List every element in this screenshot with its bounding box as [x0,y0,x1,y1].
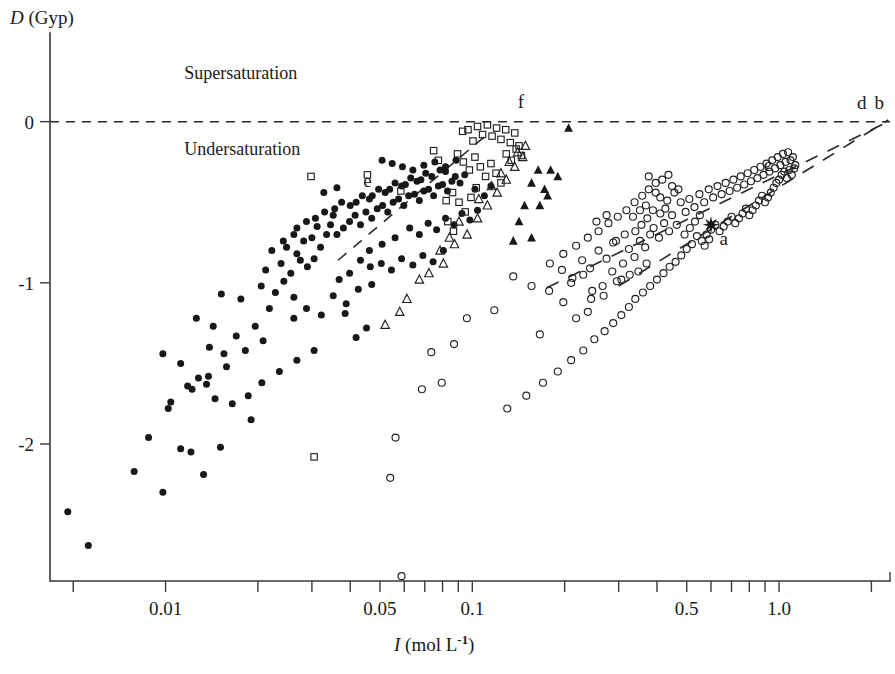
data-point [425,186,432,193]
data-point [645,173,652,180]
data-point [477,164,483,170]
data-point [474,123,480,129]
reference-lines-group [50,120,890,288]
data-point [560,250,567,257]
data-point [229,400,236,407]
data-point [595,247,602,254]
data-point [392,179,399,186]
data-point [327,221,334,228]
x-axis-unit-exponent: -1 [457,632,468,647]
y-tick-label: -1 [18,273,34,292]
data-point [406,225,413,232]
data-point [293,250,300,257]
data-point [605,220,612,227]
data-point [539,379,546,386]
data-point [661,220,668,227]
data-point [618,312,625,319]
data-point [644,215,651,222]
data-point [303,305,310,312]
data-point [452,173,459,180]
data-point [739,210,746,217]
data-point [601,328,608,335]
data-point [443,197,449,203]
data-point [368,215,375,222]
data-point [591,336,598,343]
data-point [718,191,725,198]
series-label-f: f [518,91,524,110]
data-point [696,191,703,198]
y-tick-label: -2 [18,435,34,454]
series-label-e: e [363,170,371,189]
data-point [312,215,319,222]
data-point [714,183,721,190]
data-point [272,289,279,296]
data-point [599,283,606,290]
data-point [206,344,213,351]
data-point [568,279,575,286]
data-point [258,283,265,290]
data-point [321,208,328,215]
x-tick-label: 0.5 [675,599,699,618]
data-point [352,212,359,219]
data-point [560,299,567,306]
data-point [193,315,200,322]
data-point [368,281,375,288]
data-point [479,131,485,137]
data-point [683,245,690,252]
data-point [546,287,553,294]
data-point [528,283,535,290]
data-point [398,573,405,580]
plot-axes [50,33,890,581]
data-point [399,163,406,170]
data-point [276,368,283,375]
data-point [589,287,596,294]
data-point [610,320,617,327]
data-point [220,350,227,357]
data-point [340,225,347,232]
data-point [400,202,407,209]
data-point [642,202,649,209]
data-point [353,199,360,206]
data-point [473,214,481,222]
data-point [248,416,255,423]
data-point [290,231,297,238]
series-label-b: b [874,93,884,112]
data-point [333,231,340,238]
data-point [308,173,314,179]
data-point [669,212,676,219]
data-point [303,218,310,225]
data-point [618,276,625,283]
data-point [621,231,628,238]
data-point [355,286,362,293]
data-point [660,270,667,277]
data-point [200,471,207,478]
data-point [430,258,437,265]
data-point [662,205,669,212]
data-point [460,159,466,165]
data-point [387,474,394,481]
data-point [503,127,509,133]
supersaturation-label: Supersaturation [184,64,297,82]
data-point [287,270,294,277]
data-point [64,508,71,515]
data-point [488,160,494,166]
data-point [428,349,435,356]
data-point [419,252,426,259]
data-point [483,201,491,209]
data-point [418,386,425,393]
data-point [359,192,366,199]
data-point [466,216,473,223]
data-point [677,199,684,206]
data-point [177,360,184,367]
y-axis-unit: (Gyp) [24,7,74,28]
data-point [518,153,526,161]
data-point [430,192,437,199]
data-point [416,231,423,238]
data-point [330,292,337,299]
data-point [623,207,630,214]
data-point [701,199,708,206]
series-filled-circles [64,157,494,549]
data-point [333,184,340,191]
data-point [357,257,364,264]
y-axis-title: D (Gyp) [10,8,74,27]
